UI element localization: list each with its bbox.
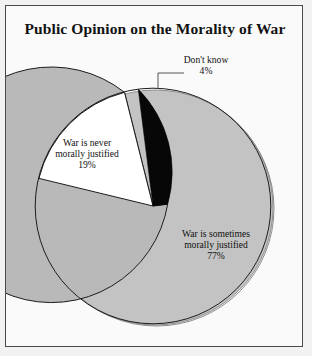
pie-label-dont-know-value: 4% <box>158 65 254 76</box>
pie-label-sometimes: War is sometimes morally justified 77% <box>152 228 280 262</box>
pie-label-sometimes-text-1: War is sometimes <box>152 228 280 239</box>
pie-chart-svg <box>6 6 304 348</box>
pie-label-sometimes-value: 77% <box>152 250 280 261</box>
pie-label-never-text-2: morally justified <box>28 148 146 159</box>
pie-label-never: War is never morally justified 19% <box>28 137 146 171</box>
pie-label-sometimes-text-2: morally justified <box>152 239 280 250</box>
pie-chart <box>6 6 304 348</box>
pie-label-never-text-1: War is never <box>28 137 146 148</box>
chart-frame: Public Opinion on the Morality of War Do <box>5 5 303 347</box>
pie-label-dont-know-text: Don't know <box>158 54 254 65</box>
chart-screenshot: Public Opinion on the Morality of War Do <box>0 0 312 356</box>
pie-label-never-value: 19% <box>28 159 146 170</box>
pie-label-dont-know: Don't know 4% <box>158 54 254 76</box>
